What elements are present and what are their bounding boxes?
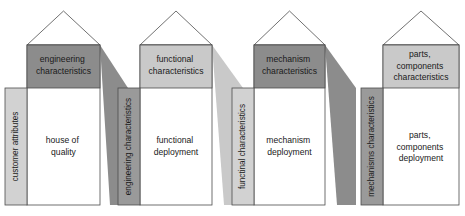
house-2-sidebar-label: engineering characteristics [124,98,133,195]
house-1-roof [27,11,100,45]
house-2-roof [140,11,212,45]
house-3: mechanism characteristics mechanism depl… [232,11,325,205]
house-2-header-label: functional characteristics [149,54,204,76]
house-4: parts, components characteristics parts,… [361,11,459,205]
connector-3-4 [325,45,356,205]
house-1-body-label: house of quality [46,135,81,157]
house-4-roof [383,11,459,45]
house-3-sidebar-label: functinal characteristics [238,104,247,189]
qfd-diagram-canvas: engineering characteristics house of qua… [0,0,465,216]
house-3-body-label: mechanism deployment [266,135,312,157]
house-2: functional characteristics functional de… [118,11,212,205]
house-3-roof [254,11,325,45]
house-1-sidebar-label: customer attributes [11,112,20,182]
house-1-header-label: engineering characteristics [36,54,91,76]
house-1: engineering characteristics house of qua… [5,11,100,205]
house-4-sidebar-label: mechanisms characteristics [367,96,376,197]
house-3-header-label: mechanism characteristics [262,54,317,76]
qfd-cascade-diagram: engineering characteristics house of qua… [0,0,465,216]
house-2-body-label: functional deployment [154,135,199,157]
